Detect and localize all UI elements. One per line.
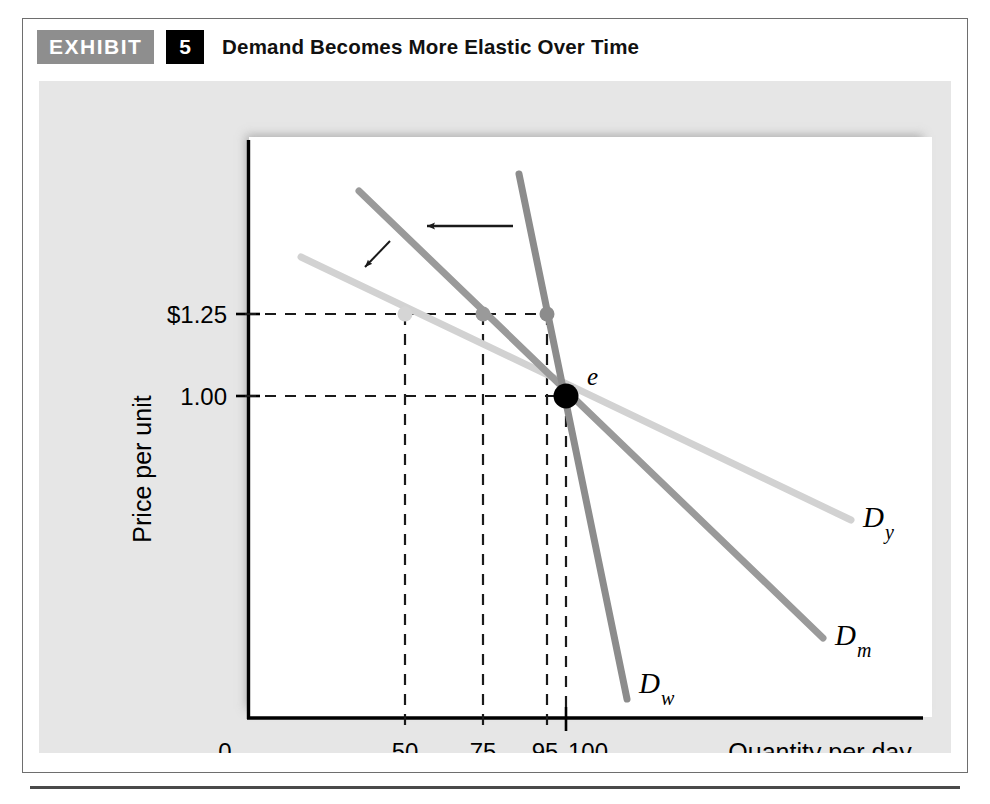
x-tick-label-50: 50 xyxy=(392,738,419,753)
curve-labels: D y D m D w xyxy=(638,501,894,709)
figure-panel: e D y D m D xyxy=(39,81,951,753)
demand-curves xyxy=(301,174,851,699)
curve-Dm xyxy=(359,191,823,638)
exhibit-header: EXHIBIT 5 Demand Becomes More Elastic Ov… xyxy=(23,19,967,75)
x-tick-labels: 0 50 75 95 100 xyxy=(218,738,608,753)
x-tick-label-100: 100 xyxy=(568,738,608,753)
exhibit-badge: EXHIBIT xyxy=(37,30,154,64)
curve-label-Dw-sub: w xyxy=(661,687,675,709)
exhibit-number: 5 xyxy=(166,30,204,64)
x-tick-label-95: 95 xyxy=(532,738,559,753)
y-axis-title: Price per unit xyxy=(128,395,156,542)
exhibit-card: EXHIBIT 5 Demand Becomes More Elastic Ov… xyxy=(22,18,968,773)
axis-ticks xyxy=(236,314,566,731)
curve-label-Dy: D xyxy=(862,501,884,533)
marker-Dw-at-125 xyxy=(540,307,555,322)
equilibrium-label: e xyxy=(587,363,598,390)
bottom-divider xyxy=(30,786,960,789)
curve-label-Dy-sub: y xyxy=(883,521,894,544)
marker-Dm-at-125 xyxy=(476,307,491,322)
arrow-to-Dy xyxy=(365,241,390,267)
x-tick-label-0: 0 xyxy=(218,738,231,753)
y-tick-label-100: 1.00 xyxy=(180,383,227,410)
exhibit-title: Demand Becomes More Elastic Over Time xyxy=(222,35,639,59)
y-tick-labels: $1.25 1.00 xyxy=(167,301,227,410)
curve-label-Dm-sub: m xyxy=(857,639,871,661)
exhibit-page: EXHIBIT 5 Demand Becomes More Elastic Ov… xyxy=(0,0,990,804)
curve-label-Dm: D xyxy=(834,619,856,651)
equilibrium-point xyxy=(554,384,579,409)
curve-label-Dw: D xyxy=(638,667,660,699)
y-tick-label-125: $1.25 xyxy=(167,301,227,328)
dashed-guides xyxy=(245,314,569,731)
x-tick-label-75: 75 xyxy=(470,738,497,753)
demand-elasticity-chart: e D y D m D xyxy=(39,81,951,753)
annotation-arrows xyxy=(365,226,513,267)
x-axis-title: Quantity per day xyxy=(728,738,912,753)
marker-Dy-at-125 xyxy=(398,307,413,322)
